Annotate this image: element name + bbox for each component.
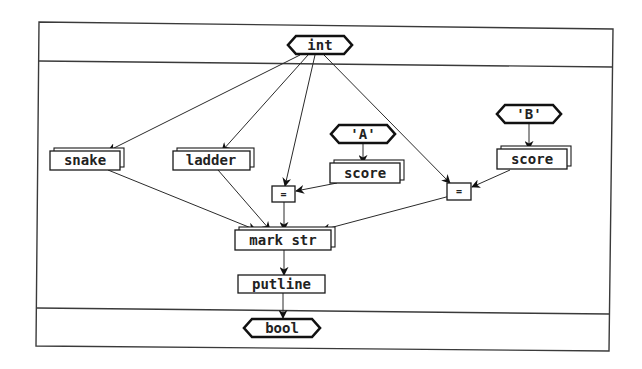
edge-int-snake xyxy=(108,55,300,151)
node-label: mark str xyxy=(249,232,316,248)
node-label: 'B' xyxy=(516,106,541,122)
input-divider xyxy=(39,61,612,67)
node-mark-str[interactable]: mark str xyxy=(235,227,335,250)
node-label: = xyxy=(456,186,462,197)
node-label: snake xyxy=(64,152,106,168)
node-label: = xyxy=(280,189,286,200)
node-bool[interactable]: bool xyxy=(244,319,320,337)
node-int[interactable]: int xyxy=(288,36,352,54)
node-label: int xyxy=(307,37,332,53)
outer-border xyxy=(36,22,613,351)
edge-scoreA-eq1 xyxy=(296,183,337,191)
edge-int-eq1 xyxy=(285,55,315,186)
node-snake[interactable]: snake xyxy=(50,148,124,170)
edge-snake-mark xyxy=(108,170,256,230)
node-score-a[interactable]: score xyxy=(330,160,404,183)
node-label: ladder xyxy=(186,152,237,168)
node-label: score xyxy=(511,151,553,167)
node-equals-2[interactable]: = xyxy=(447,183,471,200)
output-divider xyxy=(37,308,609,314)
node-label: 'A' xyxy=(350,126,375,142)
node-equals-1[interactable]: = xyxy=(272,186,295,202)
node-label: score xyxy=(344,165,386,181)
dataflow-diagram: int snake ladder 'A' score 'B' score = xyxy=(0,0,642,369)
edge-ladder-mark xyxy=(218,170,270,230)
node-score-b[interactable]: score xyxy=(497,146,571,169)
edge-scoreB-eq2 xyxy=(472,170,510,187)
node-putline[interactable]: putline xyxy=(238,275,325,293)
node-ladder[interactable]: ladder xyxy=(173,148,254,170)
node-const-a[interactable]: 'A' xyxy=(331,125,395,143)
edge-int-ladder xyxy=(222,55,308,151)
diagram-frame xyxy=(36,22,613,351)
node-label: putline xyxy=(252,276,311,292)
edge-eq2-mark xyxy=(322,196,450,230)
node-label: bool xyxy=(265,320,299,336)
node-const-b[interactable]: 'B' xyxy=(497,105,561,123)
